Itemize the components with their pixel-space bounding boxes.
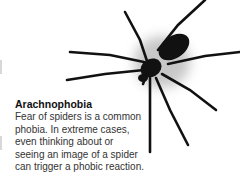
caption-body: Fear of spiders is a common phobia. In e… xyxy=(15,111,145,174)
caption-title: Arachnophobia xyxy=(15,98,145,111)
caption: Arachnophobia Fear of spiders is a commo… xyxy=(15,98,145,174)
